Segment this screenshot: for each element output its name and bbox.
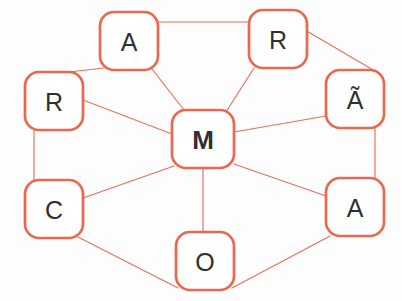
- graph-node-c_left[interactable]: C: [25, 180, 83, 238]
- graph-edge-m_center-to-c_left: [83, 166, 174, 198]
- node-label-m_center: M: [192, 125, 214, 155]
- graph-edge-r_left-to-m_center: [83, 100, 172, 134]
- node-label-c_left: C: [45, 196, 63, 224]
- node-label-r_top: R: [269, 26, 287, 54]
- graph-edge-a_tilde-to-m_center: [234, 116, 326, 132]
- graph-edge-a_top-to-m_center: [152, 69, 184, 110]
- nodes-layer: ARRÃMCAO: [25, 10, 384, 290]
- graph-node-o_bottom[interactable]: O: [176, 232, 234, 290]
- graph-edge-m_center-to-a_right: [234, 164, 326, 196]
- graph-edge-r_top-to-m_center: [226, 68, 254, 112]
- diagram-canvas: ARRÃMCAO: [0, 0, 402, 301]
- node-label-a_top: A: [121, 28, 138, 56]
- node-label-a_tilde: Ã: [347, 86, 364, 114]
- node-label-o_bottom: O: [195, 248, 214, 276]
- node-label-a_right: A: [347, 194, 364, 222]
- graph-svg: ARRÃMCAO: [0, 0, 402, 301]
- graph-edge-r_top-to-a_tilde: [305, 30, 380, 74]
- graph-edge-c_left-to-o_bottom: [78, 237, 178, 288]
- graph-node-r_top[interactable]: R: [249, 10, 307, 68]
- node-label-r_left: R: [45, 88, 63, 116]
- graph-edge-o_bottom-to-a_right: [232, 236, 330, 288]
- graph-node-a_right[interactable]: A: [326, 178, 384, 236]
- graph-node-a_tilde[interactable]: Ã: [326, 70, 384, 128]
- graph-node-r_left[interactable]: R: [25, 72, 83, 130]
- graph-node-a_top[interactable]: A: [100, 12, 158, 70]
- graph-node-m_center[interactable]: M: [172, 110, 234, 168]
